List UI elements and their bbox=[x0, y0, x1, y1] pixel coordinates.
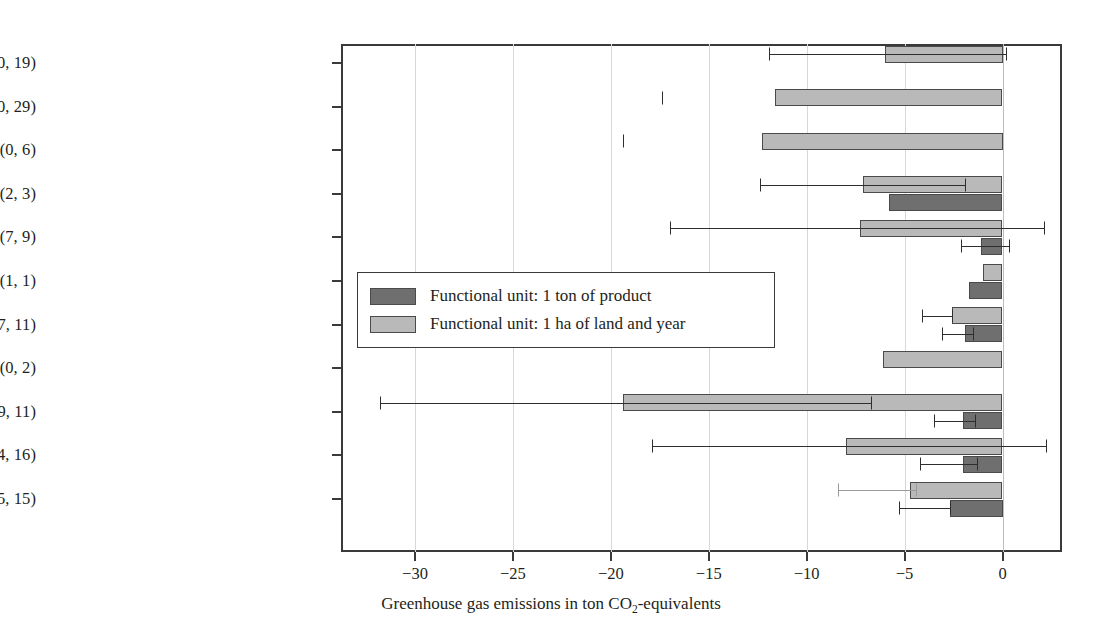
gridline-0 bbox=[1003, 44, 1004, 552]
x-tick-0 bbox=[1002, 552, 1004, 561]
errorbar-ton-cap bbox=[950, 502, 951, 515]
x-tick--20 bbox=[610, 552, 612, 561]
y-tick bbox=[332, 62, 341, 64]
legend: Functional unit: 1 ton of product Functi… bbox=[357, 272, 775, 348]
x-tick-label: −10 bbox=[794, 564, 820, 584]
x-axis-title: Greenhouse gas emissions in ton CO2-equi… bbox=[0, 594, 1102, 615]
y-tick bbox=[332, 411, 341, 413]
x-tick-label: −30 bbox=[402, 564, 428, 584]
y-tick bbox=[332, 236, 341, 238]
y-tick bbox=[332, 149, 341, 151]
errorbar-hectare-cap bbox=[760, 178, 761, 191]
y-tick bbox=[332, 498, 341, 500]
chart-figure: Biofuels (0, 19)Bioenergy (0, 29)Floorbo… bbox=[0, 0, 1102, 640]
x-tick--25 bbox=[512, 552, 514, 561]
x-tick-label: −20 bbox=[598, 564, 624, 584]
errorbar-hectare bbox=[769, 54, 1006, 55]
x-tick-label: −15 bbox=[696, 564, 722, 584]
errorbar-hectare bbox=[670, 228, 1044, 229]
errorbar-ton bbox=[934, 421, 975, 422]
errorbar-hectare bbox=[838, 490, 916, 491]
errorbar-hectare-cap bbox=[916, 484, 917, 497]
y-category-label: Plastics (24, 16) bbox=[0, 447, 36, 464]
x-tick-label: 0 bbox=[998, 564, 1006, 584]
y-tick bbox=[332, 324, 341, 326]
errorbar-ton bbox=[899, 508, 950, 509]
errorbar-ton bbox=[942, 334, 973, 335]
legend-label-ton: Functional unit: 1 ton of product bbox=[430, 286, 651, 306]
errorbar-hectare-cap bbox=[670, 222, 671, 235]
errorbar-ton-cap bbox=[977, 458, 978, 471]
errorbar-ton bbox=[961, 246, 1009, 247]
y-category-label: Composites (7, 9) bbox=[0, 229, 36, 246]
bar-hectare bbox=[762, 133, 1003, 150]
legend-label-hectare: Functional unit: 1 ha of land and year bbox=[430, 314, 685, 334]
bar-ton bbox=[950, 500, 1003, 517]
errorbar-ton-cap bbox=[975, 414, 976, 427]
errorbar-hectare-cap bbox=[952, 309, 953, 322]
legend-item-ton: Functional unit: 1 ton of product bbox=[370, 282, 762, 310]
errorbar-hectare-cap bbox=[662, 91, 663, 104]
errorbar-hectare-cap bbox=[922, 309, 923, 322]
legend-swatch-ton bbox=[370, 288, 416, 305]
x-tick--5 bbox=[904, 552, 906, 561]
errorbar-hectare-cap bbox=[652, 440, 653, 453]
y-tick bbox=[332, 367, 341, 369]
errorbar-hectare-cap bbox=[1046, 440, 1047, 453]
errorbar-hectare bbox=[760, 185, 966, 186]
errorbar-ton bbox=[920, 464, 977, 465]
y-category-label: Rubber (1, 1) bbox=[0, 273, 36, 290]
y-tick bbox=[332, 454, 341, 456]
y-category-label: Lacquer and paints (2, 3) bbox=[0, 186, 36, 203]
errorbar-hectare-cap bbox=[1006, 48, 1007, 61]
y-tick bbox=[332, 106, 341, 108]
errorbar-hectare-cap bbox=[623, 135, 624, 148]
gridline--10 bbox=[807, 44, 808, 552]
x-tick-label: −5 bbox=[896, 564, 914, 584]
x-tick-label: −25 bbox=[500, 564, 526, 584]
errorbar-hectare-cap bbox=[965, 178, 966, 191]
bar-hectare bbox=[883, 351, 1002, 368]
y-category-label: Floorboarding (0, 6) bbox=[0, 142, 36, 159]
errorbar-hectare bbox=[652, 446, 1046, 447]
gridline--5 bbox=[905, 44, 906, 552]
legend-swatch-hectare bbox=[370, 316, 416, 333]
errorbar-ton-cap bbox=[942, 327, 943, 340]
errorbar-ton-cap bbox=[973, 327, 974, 340]
x-axis-title-main: Greenhouse gas emissions in ton CO bbox=[381, 594, 632, 613]
errorbar-ton-cap bbox=[920, 458, 921, 471]
errorbar-hectare bbox=[380, 403, 872, 404]
legend-item-hectare: Functional unit: 1 ha of land and year bbox=[370, 310, 762, 338]
bar-ton bbox=[969, 282, 1002, 299]
y-tick bbox=[332, 280, 341, 282]
y-category-label: Surfactants (9, 11) bbox=[0, 404, 36, 421]
x-axis-title-suffix: -equivalents bbox=[638, 594, 721, 613]
bar-hectare bbox=[952, 307, 1003, 324]
bar-hectare bbox=[983, 264, 1003, 281]
errorbar-ton-cap bbox=[961, 240, 962, 253]
errorbar-hectare bbox=[922, 316, 951, 317]
y-category-label: Textiles (15, 15) bbox=[0, 491, 36, 508]
errorbar-ton-cap bbox=[1009, 240, 1010, 253]
y-category-label: Biofuels (0, 19) bbox=[0, 55, 36, 72]
y-category-label: Insulation materials (0, 2) bbox=[0, 360, 36, 377]
y-category-label: Bioenergy (0, 29) bbox=[0, 98, 36, 115]
y-category-label: Hydraulic oils and lubricants (7, 11) bbox=[0, 316, 36, 333]
x-tick--10 bbox=[806, 552, 808, 561]
x-tick--30 bbox=[414, 552, 416, 561]
errorbar-ton-cap bbox=[899, 502, 900, 515]
bar-ton bbox=[889, 194, 1003, 211]
x-tick--15 bbox=[708, 552, 710, 561]
bar-hectare bbox=[775, 89, 1002, 106]
errorbar-hectare-cap bbox=[1044, 222, 1045, 235]
bar-hectare bbox=[910, 482, 1002, 499]
errorbar-hectare-cap bbox=[769, 48, 770, 61]
errorbar-ton-cap bbox=[934, 414, 935, 427]
errorbar-hectare-cap bbox=[871, 396, 872, 409]
y-tick bbox=[332, 193, 341, 195]
errorbar-hectare-cap bbox=[838, 484, 839, 497]
errorbar-hectare-cap bbox=[380, 396, 381, 409]
